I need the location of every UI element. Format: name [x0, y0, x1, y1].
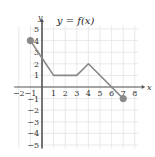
x-axis-label: x: [147, 83, 152, 92]
y-tick-label: 2: [34, 60, 39, 69]
y-tick-label: 5: [34, 25, 39, 34]
x-axis-arrow-icon: [142, 85, 145, 89]
y-tick-label: −2: [27, 106, 39, 115]
y-tick-label: 1: [34, 71, 39, 80]
endpoint-dot: [27, 37, 33, 43]
y-axis-label: y: [37, 13, 43, 22]
y-tick-label: −3: [27, 118, 39, 127]
endpoint-dot: [120, 95, 126, 101]
chart-title: y = f(x): [56, 15, 95, 26]
y-tick-label: −4: [27, 129, 39, 138]
x-tick-label: 5: [97, 89, 102, 98]
function-graph: xyy = f(x)−2−11234567854321−1−2−3−4−5: [0, 0, 155, 157]
y-tick-label: −1: [27, 95, 39, 104]
x-tick-label: 2: [63, 89, 68, 98]
x-tick-label: 8: [132, 89, 137, 98]
x-tick-label: −2: [13, 89, 25, 98]
x-tick-label: 3: [74, 89, 79, 98]
x-tick-label: 4: [86, 89, 91, 98]
x-tick-label: 1: [51, 89, 56, 98]
y-tick-label: 4: [34, 37, 39, 46]
x-tick-label: 6: [109, 89, 114, 98]
y-tick-label: −5: [27, 141, 39, 150]
